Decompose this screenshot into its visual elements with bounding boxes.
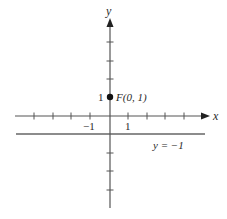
focus-point: F(0, 1) bbox=[107, 91, 147, 104]
x-axis: x −1 1 bbox=[15, 109, 219, 132]
x-axis-label: x bbox=[212, 109, 219, 123]
focus-dot-icon bbox=[107, 94, 113, 100]
directrix-label: y = −1 bbox=[152, 139, 184, 151]
coordinate-plane-figure: x −1 1 y = −1 y 1 F( bbox=[0, 0, 227, 219]
x-tick-label-one: 1 bbox=[125, 120, 131, 132]
x-axis-arrow-icon bbox=[201, 113, 210, 120]
y-tick-label-one: 1 bbox=[98, 91, 104, 103]
x-tick-label-neg-one: −1 bbox=[83, 120, 95, 132]
y-axis-label: y bbox=[105, 4, 112, 18]
y-axis-arrow-icon bbox=[107, 18, 114, 27]
y-axis: y 1 bbox=[98, 4, 114, 208]
focus-label: F(0, 1) bbox=[115, 91, 147, 104]
